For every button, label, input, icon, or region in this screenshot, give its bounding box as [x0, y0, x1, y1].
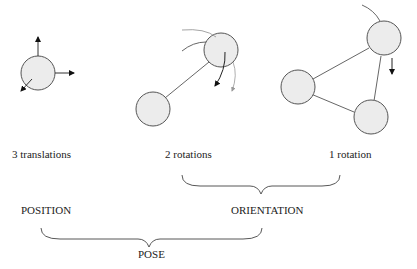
rotation-arrow-icon [232, 62, 235, 91]
pose-label: POSE [138, 248, 165, 260]
node-top [367, 21, 401, 55]
rotation-arc-icon [362, 5, 380, 21]
position-label: POSITION [21, 204, 71, 216]
two-rotations-label: 2 rotations [165, 148, 212, 160]
dof-diagram [0, 0, 417, 269]
rotation-arc-icon [182, 42, 206, 51]
translation-figure [21, 37, 74, 91]
link [313, 48, 369, 79]
rotating-node [204, 33, 238, 67]
orientation-label: ORIENTATION [231, 204, 303, 216]
translations-label: 3 translations [12, 148, 71, 160]
anchor-node [136, 92, 170, 126]
one-rotation-label: 1 rotation [329, 148, 371, 160]
link [165, 62, 209, 98]
pose-brace [41, 228, 262, 247]
orientation-brace [182, 175, 340, 194]
node-left [281, 70, 315, 104]
node-bottom [354, 100, 388, 134]
one-rotation-figure [281, 5, 401, 134]
two-rotations-figure [136, 30, 238, 126]
link [311, 94, 354, 112]
link [374, 56, 381, 101]
